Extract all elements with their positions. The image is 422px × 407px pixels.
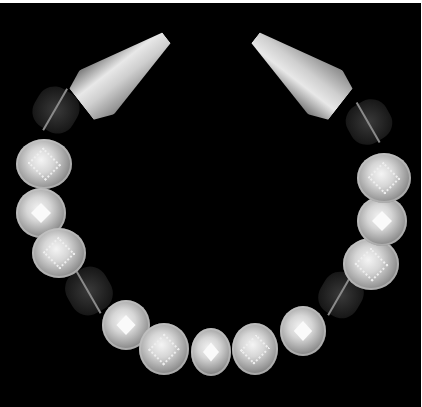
granulated-bead	[343, 238, 399, 290]
spacer-bead	[339, 93, 398, 151]
right-end-cap	[238, 16, 358, 127]
granulated-bead	[357, 153, 411, 203]
faceted-bead	[280, 306, 326, 356]
necklace-photo	[0, 3, 421, 407]
granulated-bead	[232, 323, 278, 375]
granulated-bead	[16, 139, 72, 189]
faceted-bead	[191, 328, 231, 376]
granulated-bead	[139, 323, 189, 375]
granulated-bead	[32, 228, 86, 278]
faceted-bead	[357, 196, 407, 246]
photo-frame	[0, 0, 422, 407]
left-end-cap	[64, 16, 184, 127]
